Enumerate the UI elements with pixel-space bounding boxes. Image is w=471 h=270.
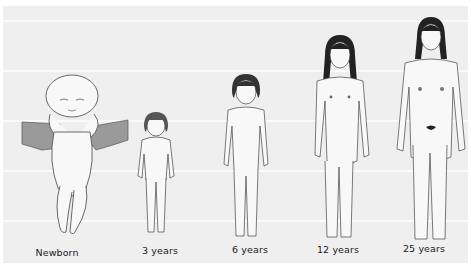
label-newborn: Newborn [17,247,97,258]
three-year-old-figure [132,112,180,238]
label-12-years: 12 years [298,244,378,255]
newborn-illustration [20,74,130,239]
label-3-years: 3 years [120,245,200,256]
label-6-years: 6 years [210,244,290,255]
twelve-year-old-figure [305,35,375,240]
newborn-figure [20,74,130,239]
adult-figure [395,17,467,241]
six-year-old-figure [218,74,274,239]
label-25-years: 25 years [384,243,464,254]
